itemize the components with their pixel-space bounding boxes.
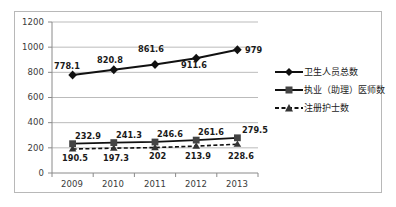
x-tick-2012: 2012	[176, 179, 216, 189]
x-tick-2009: 2009	[52, 179, 92, 189]
data-label-nurses-2009: 190.5	[62, 153, 88, 163]
data-label-nurses-2012: 213.9	[185, 151, 211, 161]
data-label-total-2012: 911.6	[181, 60, 207, 70]
y-tick-200: 200	[14, 143, 44, 153]
x-tick-2011: 2011	[135, 179, 175, 189]
y-tick-1000: 1000	[14, 42, 44, 52]
legend-label-licensed-physicians: 执业（助理）医师数	[304, 83, 385, 96]
y-axis-ticks	[48, 22, 52, 173]
legend-marker-triangle-icon	[274, 102, 304, 114]
y-tick-600: 600	[14, 92, 44, 102]
data-label-physicians-2011: 246.6	[157, 129, 183, 139]
data-label-physicians-2010: 241.3	[116, 130, 142, 140]
legend-item-licensed-physicians[interactable]: 执业（助理）医师数	[274, 82, 392, 97]
legend-label-total-health-personnel: 卫生人员总数	[304, 65, 358, 78]
data-label-physicians-2012: 261.6	[198, 127, 224, 137]
y-tick-400: 400	[14, 117, 44, 127]
y-tick-0: 0	[14, 168, 44, 178]
data-label-total-2010: 820.8	[97, 55, 123, 65]
data-label-total-2009: 778.1	[54, 61, 80, 71]
x-tick-2010: 2010	[93, 179, 133, 189]
data-label-total-2011: 861.6	[138, 44, 164, 54]
data-label-nurses-2010: 197.3	[103, 153, 129, 163]
data-label-nurses-2011: 202	[149, 151, 166, 161]
chart-container: 1200 1000 800 600 400 200 0 2009 2010 20…	[14, 11, 382, 193]
chart-legend: 卫生人员总数 执业（助理）医师数 注册护士数	[274, 64, 392, 118]
legend-marker-diamond-icon	[274, 66, 304, 78]
legend-item-registered-nurses[interactable]: 注册护士数	[274, 100, 392, 115]
data-label-physicians-2013: 279.5	[242, 125, 268, 135]
y-tick-1200: 1200	[14, 17, 44, 27]
legend-marker-square-icon	[274, 84, 304, 96]
legend-item-total-health-personnel[interactable]: 卫生人员总数	[274, 64, 392, 79]
x-axis-ticks	[52, 173, 258, 177]
legend-label-registered-nurses: 注册护士数	[304, 101, 349, 114]
data-label-nurses-2013: 228.6	[228, 151, 254, 161]
y-tick-800: 800	[14, 67, 44, 77]
x-tick-2013: 2013	[217, 179, 257, 189]
data-label-physicians-2009: 232.9	[75, 131, 101, 141]
data-label-total-2013: 979	[245, 45, 262, 55]
